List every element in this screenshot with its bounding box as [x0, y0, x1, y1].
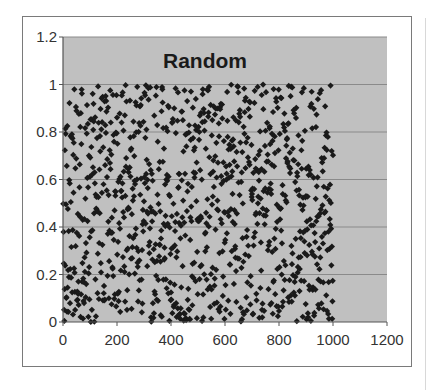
x-tick-label: 600 — [212, 331, 237, 348]
y-tick-label: 0.6 — [36, 171, 57, 188]
y-tick-label: 0.2 — [36, 266, 57, 283]
x-tick-label: 1000 — [316, 331, 349, 348]
x-axis-labels: 020040060080010001200 — [59, 331, 404, 348]
scatter-chart: 00.20.40.60.811.2 020040060080010001200 … — [0, 0, 434, 390]
x-tick-label: 400 — [158, 331, 183, 348]
y-tick-label: 0.4 — [36, 218, 57, 235]
y-tick-label: 1.2 — [36, 28, 57, 45]
y-tick-label: 1 — [49, 76, 57, 93]
x-tick-label: 200 — [104, 331, 129, 348]
chart-title: Random — [163, 49, 247, 72]
x-tick-label: 1200 — [370, 331, 403, 348]
x-tick-label: 800 — [266, 331, 291, 348]
x-tick-label: 0 — [59, 331, 67, 348]
y-tick-label: 0 — [49, 313, 57, 330]
y-axis-labels: 00.20.40.60.811.2 — [36, 28, 57, 330]
y-tick-label: 0.8 — [36, 123, 57, 140]
